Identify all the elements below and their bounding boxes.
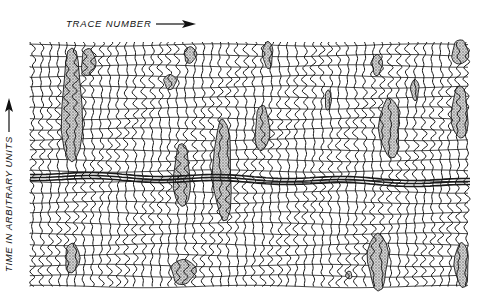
trace [395,42,402,287]
trace [132,42,139,287]
trace [429,42,436,287]
trace [200,42,207,287]
trace [353,42,360,287]
seismic-section [0,0,488,303]
trace [251,42,258,287]
trace [421,42,428,287]
trace [259,42,266,287]
trace [89,42,96,287]
horizontal-grid-lines [30,44,468,288]
anomaly-blob [61,48,83,162]
trace [319,42,326,287]
trace [191,42,198,287]
trace [115,42,122,287]
trace [446,42,453,287]
trace [106,42,113,287]
trace [276,42,283,287]
trace [157,42,164,287]
trace [268,42,275,287]
trace [123,42,130,287]
trace [302,42,309,287]
trace [285,42,292,287]
anomaly-blob [367,233,388,291]
wiggle-traces [30,42,470,287]
trace [404,42,411,287]
trace [30,42,37,287]
trace [98,42,105,287]
trace [344,42,350,287]
trace [81,42,88,287]
anomaly-blob [184,47,197,64]
trace [242,42,249,287]
trace [149,42,156,287]
trace [361,42,368,287]
trace [412,42,419,287]
anomaly-blob [212,119,231,221]
trace [327,42,334,287]
trace [47,42,54,287]
trace [293,42,300,287]
trace [140,42,147,287]
trace [55,42,62,287]
trace [234,42,241,287]
trace [336,42,343,287]
trace [38,42,45,287]
trace [438,42,445,287]
trace [310,42,317,287]
anomaly-blob [66,243,80,273]
